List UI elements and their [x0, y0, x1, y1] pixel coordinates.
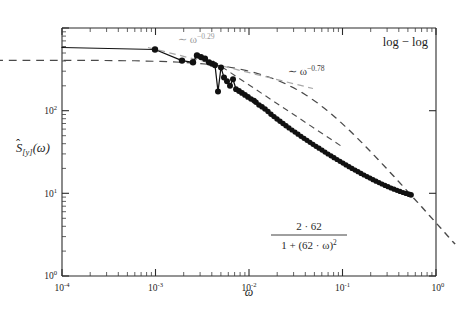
y-tick-exp-1: 1: [54, 187, 57, 194]
y-axis-label-arg: (ω): [33, 141, 50, 155]
svg-text:101: 101: [44, 187, 57, 199]
x-tick-label-1: 10: [148, 283, 158, 293]
annotation-power-029-exp: −0.29: [197, 32, 215, 41]
y-tick-exp-0: 0: [54, 269, 58, 276]
y-tick-exp-2: 2: [54, 104, 57, 111]
y-tick-label-1: 10: [44, 189, 54, 199]
x-tick-exp-4: 0: [441, 281, 445, 288]
lorentzian-model-curve: [0, 60, 455, 244]
log-log-corner-label: log − log: [383, 35, 429, 49]
annotation-lorentzian-formula: 2 · 62 1 + (62 · ω)2: [271, 220, 347, 252]
annotation-power-078-prefix: ∼ ω: [288, 65, 307, 77]
y-tick-labels: 102 101 100: [44, 104, 58, 281]
spectrum-log-log-plot: 10-4 10-3 10-2 10-1 100 102 101: [0, 0, 458, 322]
spectrum-data-markers: [152, 46, 414, 197]
lorentzian-numerator: 2 · 62: [296, 220, 322, 232]
svg-text:S[y](ω): S[y](ω): [16, 141, 50, 157]
x-tick-label-4: 10: [432, 283, 442, 293]
axes-frame: [62, 28, 436, 276]
y-tick-label-0: 10: [44, 271, 54, 281]
x-axis-label: ω: [245, 285, 253, 299]
y-tick-label-2: 10: [44, 106, 54, 116]
y-tick-marks: [62, 28, 436, 276]
x-tick-label-3: 10: [335, 283, 345, 293]
y-axis-label: ˆ S[y](ω): [16, 137, 50, 157]
x-tick-exp-3: -1: [345, 281, 351, 288]
lorentzian-denominator: 1 + (62 · ω)2: [281, 238, 337, 253]
x-tick-exp-0: -4: [64, 281, 70, 288]
x-tick-marks: [62, 28, 436, 276]
svg-text:10-3: 10-3: [148, 281, 164, 293]
svg-text:10-1: 10-1: [335, 281, 350, 293]
x-tick-label-0: 10: [55, 283, 65, 293]
annotation-power-078-exp: −0.78: [307, 64, 325, 73]
figure-container: 10-4 10-3 10-2 10-1 100 102 101: [0, 0, 458, 322]
svg-text:100: 100: [44, 269, 58, 281]
annotation-power-029-prefix: ∼ ω: [178, 33, 197, 45]
lorentzian-denominator-exp: 2: [333, 238, 337, 247]
svg-text:100: 100: [432, 281, 446, 293]
annotation-power-078: ∼ ω−0.78: [288, 64, 325, 78]
y-axis-label-sub: [y]: [22, 147, 32, 157]
power-law-078-line: [213, 61, 341, 146]
x-tick-exp-1: -3: [158, 281, 164, 288]
annotation-power-029: ∼ ω−0.29: [178, 32, 215, 46]
svg-text:102: 102: [44, 104, 57, 116]
lorentzian-denominator-text: 1 + (62 · ω): [281, 239, 333, 252]
svg-text:10-4: 10-4: [55, 281, 71, 293]
